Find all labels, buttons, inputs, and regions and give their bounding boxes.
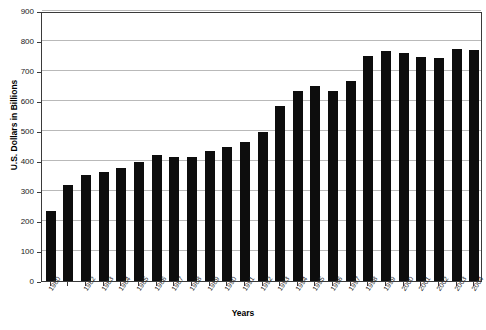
bar [205, 151, 215, 281]
y-tick-label: 0 [30, 278, 34, 286]
bar [469, 50, 479, 281]
y-tick-label: 200 [21, 218, 34, 226]
bar [399, 53, 409, 281]
x-axis: 1980198219831984198519861987198819891990… [41, 282, 482, 330]
plot-area [41, 12, 482, 282]
bar [134, 162, 144, 281]
bar [434, 58, 444, 282]
bar [416, 57, 426, 281]
gridline [42, 10, 481, 11]
bar [381, 51, 391, 281]
bar [187, 157, 197, 281]
y-tick-label: 700 [21, 68, 34, 76]
y-tick-label: 800 [21, 38, 34, 46]
bar-chart: U.S. Dollars in Billions 010020030040050… [0, 0, 486, 330]
bar [152, 155, 162, 281]
x-tick-mark [67, 282, 68, 286]
y-tick-label: 900 [21, 8, 34, 16]
y-axis: 0100200300400500600700800900 [0, 0, 41, 294]
bar [363, 56, 373, 281]
bar [293, 91, 303, 281]
bar [116, 168, 126, 281]
bar [452, 49, 462, 282]
y-tick-label: 400 [21, 158, 34, 166]
bar [169, 157, 179, 281]
bar [275, 106, 285, 282]
bar [222, 147, 232, 281]
bar [310, 86, 320, 281]
bar [63, 185, 73, 281]
bar [240, 142, 250, 281]
bar [81, 175, 91, 281]
y-tick-label: 300 [21, 188, 34, 196]
x-axis-title: Years [0, 308, 486, 318]
bar [258, 132, 268, 281]
bars-group [42, 13, 481, 281]
bar [346, 81, 356, 281]
y-tick-label: 100 [21, 248, 34, 256]
bar [99, 172, 109, 281]
bar [46, 211, 56, 281]
bar [328, 91, 338, 282]
y-tick-label: 500 [21, 128, 34, 136]
y-tick-label: 600 [21, 98, 34, 106]
